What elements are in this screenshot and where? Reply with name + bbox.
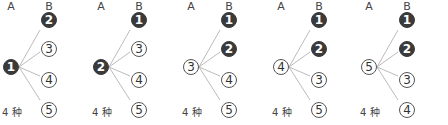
branch-node: 5 (311, 102, 327, 118)
root-node: 1 (3, 59, 19, 75)
branch-node: 1 (221, 12, 237, 28)
branch-node: 4 (41, 72, 57, 88)
root-node: 4 (273, 59, 289, 75)
tree-panel-5: A B 5 1 2 3 4 4 种 (358, 0, 448, 125)
branch-node: 3 (131, 41, 147, 57)
branch-node: 2 (41, 12, 57, 28)
column-label-a: A (95, 0, 107, 13)
count-label: 4 种 (2, 104, 22, 119)
column-label-a: A (275, 0, 287, 13)
branch-node: 3 (399, 72, 415, 88)
column-label-a: A (185, 0, 197, 13)
count-label: 4 种 (182, 104, 202, 119)
branch-node: 2 (311, 41, 327, 57)
branch-node: 5 (131, 102, 147, 118)
tree-panel-3: A B 3 1 2 4 5 4 种 (180, 0, 270, 125)
branch-node: 1 (311, 12, 327, 28)
branch-node: 5 (221, 102, 237, 118)
branch-node: 4 (131, 72, 147, 88)
root-node: 2 (93, 59, 109, 75)
branch-node: 3 (41, 41, 57, 57)
branch-node: 5 (41, 102, 57, 118)
branch-node: 1 (399, 12, 415, 28)
tree-panel-4: A B 4 1 2 3 5 4 种 (270, 0, 360, 125)
branch-node: 1 (131, 12, 147, 28)
branch-node: 3 (311, 72, 327, 88)
count-label: 4 种 (272, 104, 292, 119)
branch-node: 2 (399, 41, 415, 57)
column-label-a: A (5, 0, 17, 13)
tree-panel-1: A B 1 2 3 4 5 4 种 (0, 0, 90, 125)
branch-node: 4 (399, 102, 415, 118)
count-label: 4 种 (92, 104, 112, 119)
root-node: 5 (361, 59, 377, 75)
tree-panel-2: A B 2 1 3 4 5 4 种 (90, 0, 180, 125)
branch-node: 2 (221, 41, 237, 57)
root-node: 3 (183, 59, 199, 75)
branch-node: 4 (221, 72, 237, 88)
count-label: 4 种 (360, 104, 380, 119)
column-label-a: A (363, 0, 375, 13)
